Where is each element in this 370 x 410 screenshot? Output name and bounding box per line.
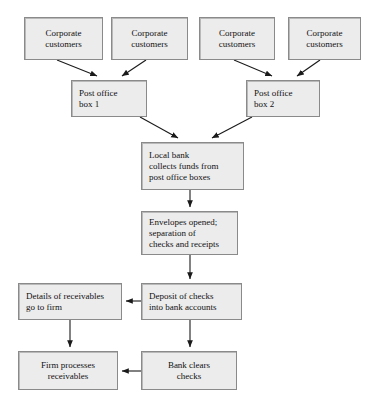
edge-corp2-to-pobox1 [122,60,146,76]
node-label: Envelopes opened; separation of checks a… [142,217,219,250]
edge-corp1-to-pobox1 [57,60,97,76]
node-localbank: Local bank collects funds from post offi… [141,142,244,190]
edge-pobox2-to-localbank [212,117,252,138]
node-label: Corporate customers [303,28,346,50]
node-label: Deposit of checks into bank accounts [142,291,216,313]
node-envelopes: Envelopes opened; separation of checks a… [141,211,238,255]
node-label: Bank clears checks [165,360,213,382]
edge-pobox1-to-localbank [140,117,178,138]
edge-corp4-to-pobox2 [297,60,320,76]
node-corp3: Corporate customers [199,17,275,60]
node-label: Firm processes receivables [38,360,98,382]
node-corp4: Corporate customers [288,17,361,60]
flowchart-diagram: Corporate customersCorporate customersCo… [0,0,370,410]
node-label: Post office box 2 [247,88,293,110]
node-label: Corporate customers [216,28,259,50]
node-pobox1: Post office box 1 [71,80,147,117]
node-label: Details of receivables go to firm [19,291,104,313]
node-corp1: Corporate customers [24,17,103,60]
node-label: Corporate customers [42,28,85,50]
edge-corp3-to-pobox2 [234,60,272,76]
node-bank: Bank clears checks [141,351,237,390]
node-details: Details of receivables go to firm [18,283,122,320]
node-label: Post office box 1 [72,88,118,110]
edge-layer [0,0,370,410]
node-corp2: Corporate customers [111,17,188,60]
node-label: Corporate customers [128,28,171,50]
node-label: Local bank collects funds from post offi… [142,150,218,183]
node-firm: Firm processes receivables [18,351,118,390]
node-deposit: Deposit of checks into bank accounts [141,283,242,320]
node-pobox2: Post office box 2 [246,80,320,117]
